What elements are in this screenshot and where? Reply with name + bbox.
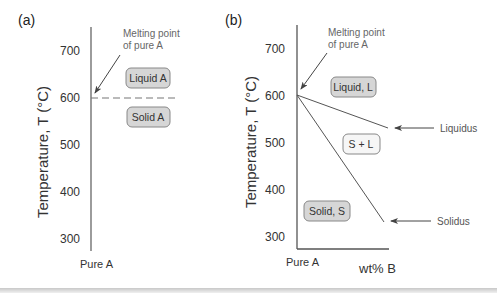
x-label-left: Pure A <box>286 256 320 268</box>
tick-label: 700 <box>60 44 80 58</box>
liquidus-line <box>297 95 388 128</box>
tick-label: 300 <box>60 232 80 246</box>
y-axis-label: Temperature, T (°C) <box>34 86 51 218</box>
tick-label: 700 <box>265 42 285 56</box>
phase-diagrams: (a) Temperature, T (°C) 700 600 500 400 … <box>0 0 497 293</box>
tick-label: 600 <box>60 91 80 105</box>
arrow-icon <box>301 53 327 89</box>
tick-label: 400 <box>60 185 80 199</box>
y-axis-label: Temperature, T (°C) <box>242 76 259 208</box>
x-label: Pure A <box>80 258 114 270</box>
tick-label: 500 <box>265 136 285 150</box>
annotation-text: of pure A <box>328 39 368 50</box>
annotation-text: Melting point <box>123 28 180 39</box>
y-ticks: 700 600 500 400 300 <box>265 42 285 244</box>
tick-label: 300 <box>265 230 285 244</box>
arrow-icon <box>95 55 120 93</box>
bottom-divider <box>0 288 497 293</box>
panel-b-label: (b) <box>225 12 242 28</box>
annotation-text: Melting point <box>328 27 385 38</box>
liquidus-label: Liquidus <box>440 123 477 134</box>
tick-label: 400 <box>265 183 285 197</box>
region-liquid-label: Liquid A <box>129 72 166 84</box>
x-label-right: wt% B <box>358 261 396 276</box>
tick-label: 600 <box>265 89 285 103</box>
annotation-text: of pure A <box>123 40 163 51</box>
panel-a-label: (a) <box>18 12 35 28</box>
region-solid-label: Solid A <box>132 111 165 123</box>
solidus-label: Solidus <box>437 216 470 227</box>
panel-b: (b) Temperature, T (°C) 700 600 500 400 … <box>225 12 477 276</box>
region-liquid-label: Liquid, L <box>333 81 373 93</box>
region-mixed-label: S + L <box>349 138 374 150</box>
panel-a: (a) Temperature, T (°C) 700 600 500 400 … <box>18 12 180 270</box>
region-solid-label: Solid, S <box>309 205 345 217</box>
y-ticks: 700 600 500 400 300 <box>60 44 80 246</box>
tick-label: 500 <box>60 138 80 152</box>
